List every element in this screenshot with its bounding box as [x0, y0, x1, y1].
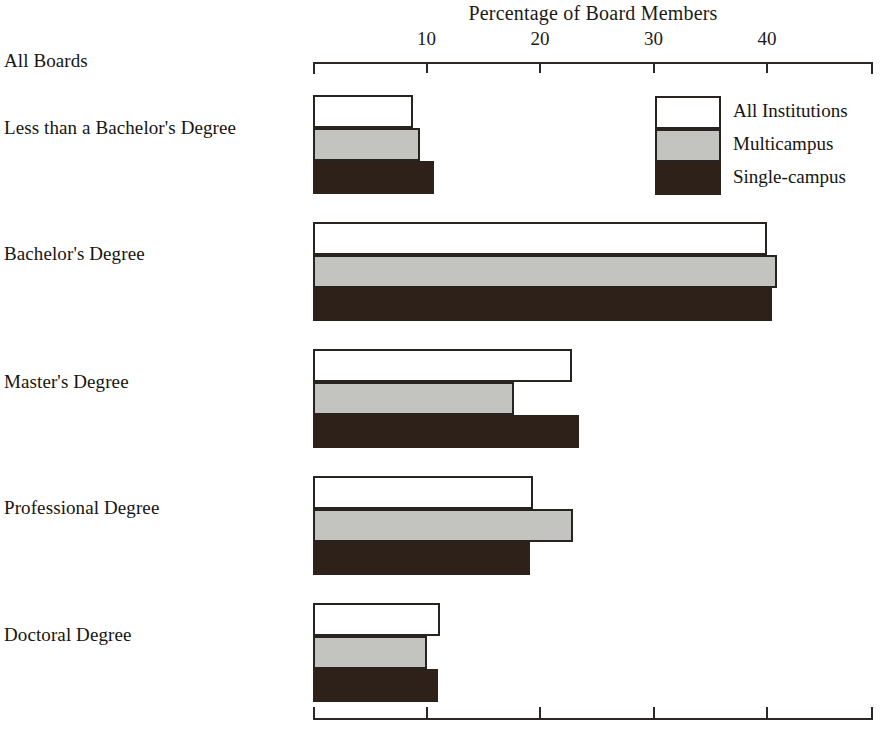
bar-single-campus-group-5 — [313, 669, 438, 702]
x-tick-label-30: 30 — [632, 28, 676, 50]
bottom-axis-right-cap — [871, 707, 873, 719]
x-tick-mark-20 — [539, 62, 541, 73]
bottom-axis-left-cap — [313, 707, 315, 719]
legend-label-single-campus: Single-campus — [733, 160, 846, 193]
bar-multicampus-group-2 — [313, 255, 777, 288]
category-label-professional: Professional Degree — [4, 497, 159, 519]
legend-label-multicampus: Multicampus — [733, 127, 833, 160]
category-label-less-than-bachelors: Less than a Bachelor's Degree — [4, 117, 236, 139]
bar-single-campus-group-2 — [313, 288, 772, 321]
bar-multicampus-group-5 — [313, 636, 427, 669]
legend-swatch-all-institutions — [655, 96, 721, 129]
bar-single-campus-group-1 — [313, 161, 434, 194]
legend-swatch-single-campus — [655, 162, 721, 195]
category-label-masters: Master's Degree — [4, 371, 129, 393]
bar-single-campus-group-4 — [313, 542, 530, 575]
bar-chart: Percentage of Board Members 10 20 30 40 … — [0, 0, 882, 737]
top-axis-left-cap — [313, 62, 315, 74]
bar-all-institutions-group-4 — [313, 476, 533, 509]
category-label-bachelors: Bachelor's Degree — [4, 243, 145, 265]
bar-multicampus-group-4 — [313, 509, 573, 542]
x-tick-mark-30 — [653, 62, 655, 73]
chart-title: Percentage of Board Members — [313, 2, 873, 25]
x-tick-mark-40 — [766, 62, 768, 73]
top-axis-right-cap — [871, 62, 873, 74]
bar-all-institutions-group-1 — [313, 95, 413, 128]
x-tick-mark-bottom-30 — [653, 707, 655, 719]
bar-all-institutions-group-3 — [313, 349, 572, 382]
x-tick-label-10: 10 — [405, 28, 449, 50]
bar-all-institutions-group-5 — [313, 603, 440, 636]
legend-label-all-institutions: All Institutions — [733, 94, 848, 127]
top-axis-line — [313, 62, 873, 64]
x-tick-label-40: 40 — [745, 28, 789, 50]
bottom-axis-line — [313, 718, 873, 720]
x-tick-label-20: 20 — [518, 28, 562, 50]
x-tick-mark-bottom-10 — [426, 707, 428, 719]
bar-single-campus-group-3 — [313, 415, 579, 448]
category-label-doctoral: Doctoral Degree — [4, 624, 132, 646]
legend-swatch-multicampus — [655, 129, 721, 162]
x-tick-mark-10 — [426, 62, 428, 73]
bar-all-institutions-group-2 — [313, 222, 767, 255]
bar-multicampus-group-3 — [313, 382, 514, 415]
x-tick-mark-bottom-40 — [766, 707, 768, 719]
x-tick-mark-bottom-20 — [539, 707, 541, 719]
bar-multicampus-group-1 — [313, 128, 420, 161]
group-header-label: All Boards — [4, 50, 88, 72]
